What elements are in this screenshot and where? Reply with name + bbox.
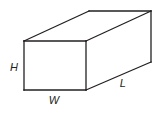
top-left-depth-edge (24, 11, 89, 41)
dimension-label-width: W (49, 95, 60, 106)
top-right-depth-edge (86, 11, 151, 41)
figure-canvas: H W L (0, 0, 164, 114)
bottom-right-depth-edge (86, 62, 151, 90)
dimension-label-length: L (120, 78, 126, 89)
dimension-label-height: H (10, 62, 18, 73)
rectangular-prism-drawing (0, 0, 164, 114)
